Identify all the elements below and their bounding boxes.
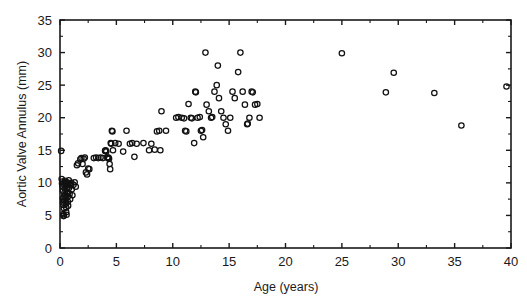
- y-tick-label: 10: [38, 175, 52, 190]
- y-tick-label: 35: [38, 13, 52, 28]
- scatter-plot-figure: 0510152025303540 05101520253035 Age (yea…: [0, 0, 527, 297]
- x-tick-label: 10: [166, 254, 180, 269]
- y-axis-title: Aortic Valve Annulus (mm): [15, 61, 29, 207]
- x-tick-label: 20: [278, 254, 292, 269]
- chart-background: [0, 0, 527, 297]
- x-tick-label: 0: [56, 254, 63, 269]
- y-tick-label: 20: [38, 110, 52, 125]
- y-tick-label: 5: [45, 208, 52, 223]
- y-tick-label: 30: [38, 45, 52, 60]
- y-tick-label: 0: [45, 241, 52, 256]
- y-tick-label: 15: [38, 143, 52, 158]
- x-tick-label: 40: [504, 254, 518, 269]
- x-tick-label: 35: [447, 254, 461, 269]
- x-tick-label: 25: [335, 254, 349, 269]
- y-tick-label: 25: [38, 78, 52, 93]
- x-tick-label: 5: [113, 254, 120, 269]
- x-tick-label: 30: [391, 254, 405, 269]
- chart-canvas: 0510152025303540 05101520253035 Age (yea…: [0, 0, 527, 297]
- x-axis-title: Age (years): [254, 280, 319, 294]
- x-tick-label: 15: [222, 254, 236, 269]
